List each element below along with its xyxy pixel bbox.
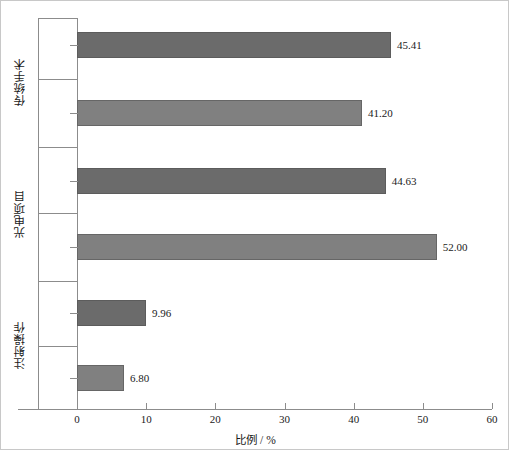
bar-value-label: 44.63 xyxy=(392,175,417,187)
category-tick xyxy=(70,313,78,314)
bar-row: 9.96 xyxy=(77,300,492,326)
bar-row: 44.63 xyxy=(77,168,492,194)
category-tick xyxy=(70,247,78,248)
group-axis-spine xyxy=(38,18,39,409)
category-tick xyxy=(70,181,78,182)
x-axis-tick xyxy=(146,403,147,409)
group-axis-end xyxy=(38,409,78,410)
group-axis-end xyxy=(38,18,78,19)
group-label: 传统手术 xyxy=(9,18,31,147)
bar-row: 45.41 xyxy=(77,32,492,58)
x-axis-line xyxy=(18,409,492,410)
bar xyxy=(77,365,124,391)
category-tick xyxy=(70,45,78,46)
x-axis-tick-label: 0 xyxy=(57,413,97,425)
x-axis-tick xyxy=(354,403,355,409)
group-separator xyxy=(38,79,78,80)
category-tick xyxy=(70,378,78,379)
x-axis-tick-label: 20 xyxy=(195,413,235,425)
bar xyxy=(77,168,386,194)
group-separator xyxy=(38,147,78,148)
bar xyxy=(77,234,437,260)
bar xyxy=(77,100,362,126)
x-axis-tick xyxy=(285,403,286,409)
x-axis-tick xyxy=(77,403,78,409)
x-axis-tick-label: 50 xyxy=(403,413,443,425)
group-separator xyxy=(38,281,78,282)
bar-value-label: 41.20 xyxy=(368,107,393,119)
x-axis-tick-label: 60 xyxy=(472,413,509,425)
x-axis-title: 比例 / % xyxy=(1,431,509,447)
x-axis-tick xyxy=(492,403,493,409)
group-label: 注射操作 xyxy=(9,281,31,409)
x-axis-tick xyxy=(423,403,424,409)
bar-row: 52.00 xyxy=(77,234,492,260)
x-axis-tick xyxy=(215,403,216,409)
group-separator xyxy=(38,346,78,347)
bar-row: 6.80 xyxy=(77,365,492,391)
bar xyxy=(77,32,391,58)
bar-row: 41.20 xyxy=(77,100,492,126)
category-tick xyxy=(70,113,78,114)
x-axis-tick-label: 30 xyxy=(265,413,305,425)
bar-value-label: 6.80 xyxy=(130,372,149,384)
x-axis-tick-label: 40 xyxy=(334,413,374,425)
x-axis-tick-label: 10 xyxy=(126,413,166,425)
bar-value-label: 9.96 xyxy=(152,307,171,319)
chart-figure: 45.41全国均值41.20河南省44.63全国均值52.00河南省9.96全国… xyxy=(0,0,509,450)
plot-area xyxy=(77,18,492,409)
bar-value-label: 45.41 xyxy=(397,39,422,51)
group-label: 光电项目 xyxy=(9,147,31,281)
bar-value-label: 52.00 xyxy=(443,241,468,253)
bar xyxy=(77,300,146,326)
group-separator xyxy=(38,213,78,214)
